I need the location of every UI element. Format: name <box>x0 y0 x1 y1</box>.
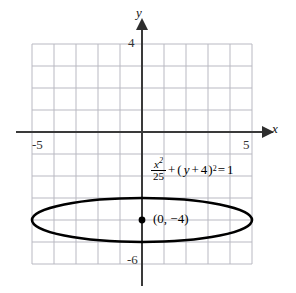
equation-numerator-exponent: 2 <box>159 156 163 165</box>
y-tick-label-neg6: -6 <box>127 253 138 266</box>
equation-annotation: x2 25 + ( y + 4 ) 2 = 1 <box>150 157 235 182</box>
equation-inner-constant: 4 <box>201 163 208 176</box>
x-axis <box>16 126 274 138</box>
equation-inner-plus: + <box>191 163 198 176</box>
y-axis-label: y <box>136 6 142 19</box>
equation-fraction: x2 25 <box>151 157 166 182</box>
equation-variable-y: y <box>184 163 190 176</box>
center-point-marker <box>139 217 146 224</box>
equation-plus-sign: + <box>168 163 175 176</box>
equation-denominator: 25 <box>151 171 166 182</box>
y-axis <box>136 18 148 286</box>
x-tick-label-neg5: -5 <box>32 138 43 151</box>
equation-open-paren: ( <box>177 163 181 176</box>
x-tick-label-5: 5 <box>243 138 250 151</box>
equation-right-hand-side: 1 <box>227 163 234 176</box>
equation-numerator: x2 <box>152 157 165 170</box>
y-tick-label-4: 4 <box>128 36 135 49</box>
graph-canvas <box>0 0 296 293</box>
equation-equals-sign: = <box>218 163 225 176</box>
equation-outer-exponent: 2 <box>213 165 217 173</box>
center-point-label: (0, −4) <box>153 212 189 225</box>
x-axis-label: x <box>272 122 278 135</box>
ellipse-figure: y x 4 -5 5 -6 (0, −4) x2 25 + ( y + 4 ) … <box>0 0 296 293</box>
